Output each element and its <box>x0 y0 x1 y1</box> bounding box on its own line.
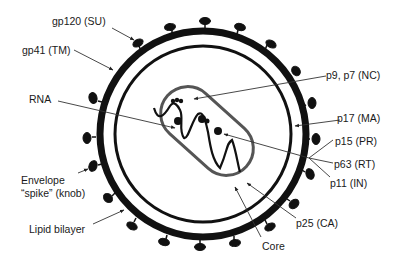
spike <box>229 236 241 247</box>
lipid-bilayer <box>100 31 306 237</box>
spike <box>164 23 176 33</box>
label-p15: p15 (PR) <box>335 135 377 147</box>
spike <box>302 167 316 180</box>
label-gp120: gp120 (SU) <box>52 15 106 27</box>
label-p11: p11 (IN) <box>330 177 367 189</box>
spike <box>264 220 277 232</box>
label-lipid-bilayer: Lipid bilayer <box>29 223 86 235</box>
spike <box>158 235 170 247</box>
spike <box>200 18 211 29</box>
spike <box>87 159 102 172</box>
spike <box>83 133 96 144</box>
label-p25: p25 (CA) <box>296 217 338 229</box>
label-envelope-spike: Envelope “spike” (knob) <box>21 174 85 199</box>
label-p17: p17 (MA) <box>337 112 380 124</box>
label-core: Core <box>262 240 285 252</box>
spike <box>287 197 301 210</box>
hiv-virion-diagram: gp120 (SU) gp41 (TM) RNA Envelope “spike… <box>0 0 400 265</box>
spike <box>102 192 115 205</box>
label-gp41: gp41 (TM) <box>22 44 70 56</box>
label-envelope-line1: Envelope <box>21 174 65 186</box>
envelope-spikes <box>83 18 320 251</box>
label-p63: p63 (RT) <box>334 158 375 170</box>
spike <box>264 38 277 50</box>
label-rna: RNA <box>29 93 51 105</box>
spike <box>195 240 206 251</box>
spike <box>234 22 246 34</box>
label-p9-p7: p9, p7 (NC) <box>326 69 380 81</box>
label-envelope-line2: “spike” (knob) <box>21 187 85 199</box>
spike <box>126 218 139 231</box>
spike <box>88 92 102 105</box>
